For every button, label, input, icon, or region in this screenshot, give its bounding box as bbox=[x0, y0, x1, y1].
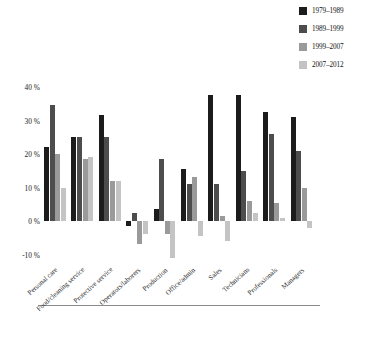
bar bbox=[208, 95, 213, 221]
bar bbox=[99, 115, 104, 221]
y-tick-label: 20 % bbox=[25, 150, 40, 159]
bar bbox=[126, 221, 131, 226]
legend-swatch-1999-2007 bbox=[299, 43, 307, 51]
zero-baseline bbox=[38, 305, 320, 306]
bar bbox=[71, 137, 76, 221]
bar bbox=[116, 181, 121, 221]
legend-label-1999-2007: 1999–2007 bbox=[312, 43, 343, 51]
bar bbox=[61, 188, 66, 222]
bar bbox=[280, 218, 285, 221]
bar bbox=[170, 221, 175, 258]
bar bbox=[214, 184, 219, 221]
bar bbox=[110, 181, 115, 221]
bar bbox=[83, 159, 88, 221]
x-tick-label: Managers bbox=[280, 266, 306, 290]
bar bbox=[181, 169, 186, 221]
y-tick-label: -10 % bbox=[22, 250, 40, 259]
bar bbox=[55, 154, 60, 221]
bar bbox=[253, 213, 258, 221]
legend-item-1999-2007: 1999–2007 bbox=[299, 43, 343, 51]
legend-label-1979-1989: 1979–1989 bbox=[312, 7, 343, 15]
bar bbox=[137, 221, 142, 244]
bar bbox=[274, 203, 279, 221]
plot-area bbox=[44, 84, 312, 221]
bar bbox=[247, 201, 252, 221]
bar bbox=[159, 159, 164, 221]
bar bbox=[192, 177, 197, 221]
bar bbox=[187, 184, 192, 221]
chart-legend: 1979–1989 1989–1999 1999–2007 2007–2012 bbox=[299, 7, 343, 69]
bar bbox=[88, 157, 93, 221]
bar bbox=[302, 188, 307, 222]
legend-swatch-1989-1999 bbox=[299, 25, 307, 33]
bar bbox=[263, 112, 268, 221]
bar bbox=[50, 105, 55, 221]
y-tick-label: 40 % bbox=[25, 83, 40, 92]
bar bbox=[198, 221, 203, 236]
bar bbox=[154, 209, 159, 221]
bar bbox=[104, 137, 109, 221]
x-tick-label: Sales bbox=[207, 266, 223, 282]
bar bbox=[132, 213, 137, 221]
bar bbox=[220, 216, 225, 221]
bar bbox=[143, 221, 148, 234]
bar bbox=[236, 95, 241, 221]
y-tick-label: 10 % bbox=[25, 183, 40, 192]
bar bbox=[77, 137, 82, 221]
y-tick-label: 30 % bbox=[25, 116, 40, 125]
bar bbox=[44, 147, 49, 221]
legend-item-1989-1999: 1989–1999 bbox=[299, 25, 343, 33]
figure-container: 1979–1989 1989–1999 1999–2007 2007–2012 … bbox=[0, 0, 380, 358]
bar bbox=[225, 221, 230, 241]
bar bbox=[291, 117, 296, 221]
legend-swatch-1979-1989 bbox=[299, 7, 307, 15]
legend-swatch-2007-2012 bbox=[299, 61, 307, 69]
bar bbox=[269, 134, 274, 221]
bar bbox=[165, 221, 170, 234]
y-axis-tick-labels: 40 %30 %20 %10 %0 %-10 % bbox=[10, 0, 40, 358]
legend-label-1989-1999: 1989–1999 bbox=[312, 25, 343, 33]
bar bbox=[296, 151, 301, 221]
y-tick-label: 0 % bbox=[28, 217, 40, 226]
legend-label-2007-2012: 2007–2012 bbox=[312, 61, 343, 69]
bar bbox=[241, 171, 246, 221]
legend-item-1979-1989: 1979–1989 bbox=[299, 7, 343, 15]
x-tick-label: Food/cleaning service bbox=[35, 266, 86, 313]
legend-item-2007-2012: 2007–2012 bbox=[299, 61, 343, 69]
bar bbox=[307, 221, 312, 228]
